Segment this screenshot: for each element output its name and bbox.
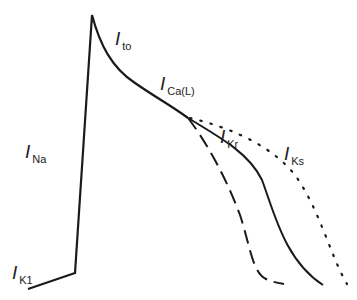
label-ikr: IKr	[220, 126, 239, 150]
label-ina: INa	[25, 141, 47, 165]
action-potential-diagram: INa Ito ICa(L) IKr IKs IK1	[0, 0, 357, 300]
label-iks: IKs	[284, 143, 305, 167]
label-ik1: IK1	[12, 262, 33, 286]
label-ical: ICa(L)	[160, 73, 195, 97]
label-ito: Ito	[115, 28, 131, 52]
normal-repolarization-curve	[188, 118, 323, 285]
main-trace	[28, 15, 188, 289]
